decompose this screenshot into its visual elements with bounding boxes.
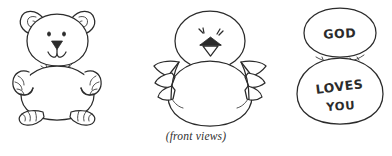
message-top-text: GOD (323, 25, 357, 42)
message-ovals-figure: GOD LOVES YOU (288, 0, 392, 128)
bear-head (27, 14, 88, 66)
chick-body (168, 61, 252, 126)
message-bottom-text-line-2: YOU (325, 98, 356, 114)
figure-caption: (front views) (0, 130, 392, 142)
teddy-bear-figure (8, 0, 126, 128)
bear-right-foot (70, 111, 95, 125)
chick-figure (142, 0, 278, 128)
bear-left-foot (19, 111, 44, 125)
illustration-page: GOD LOVES YOU (front views) (0, 0, 392, 156)
